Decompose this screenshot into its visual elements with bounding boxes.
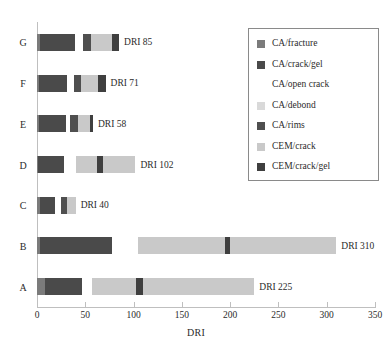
y-axis-label-g: G (14, 37, 32, 48)
x-tick-label: 350 (368, 310, 382, 320)
legend-item: CA/open crack (257, 78, 329, 92)
legend-label: CA/fracture (272, 39, 317, 49)
bar-segment (74, 75, 82, 92)
bar-segment (82, 278, 92, 295)
legend-swatch-icon (257, 102, 265, 110)
bar-total-label: DRI 58 (93, 119, 126, 129)
bar-segment (39, 75, 67, 92)
bar-row-c: DRI 40 (0, 197, 392, 214)
legend-item: CA/debond (257, 99, 316, 113)
dri-stacked-bar-chart: DRI 85DRI 71DRI 58DRI 102DRI 40DRI 310DR… (0, 0, 392, 350)
bar-segment (38, 156, 64, 173)
bar-segment (92, 278, 136, 295)
bar-total-label: DRI 40 (76, 200, 109, 210)
bar-segment (40, 34, 75, 51)
bar-total-label: DRI 71 (106, 78, 139, 88)
x-axis-title: DRI (0, 327, 392, 338)
legend-item: CA/crack/gel (257, 58, 323, 72)
bar-segment (70, 115, 78, 132)
bar-segment (75, 34, 84, 51)
legend-swatch-icon (257, 40, 265, 48)
y-axis-label-e: E (14, 118, 32, 129)
bar-total-label: DRI 102 (136, 160, 174, 170)
bar-segment (143, 278, 254, 295)
x-tick-label: 250 (271, 310, 285, 320)
bar-segment (83, 34, 91, 51)
legend-swatch-icon (257, 143, 265, 151)
bar-segment (64, 156, 76, 173)
x-tick-label: 300 (320, 310, 334, 320)
bar-total-label: DRI 310 (336, 241, 374, 251)
x-tick-mark (375, 302, 376, 308)
legend-label: CEM/crack (272, 142, 316, 152)
x-tick-label: 150 (175, 310, 189, 320)
bar-segment (37, 278, 45, 295)
legend-item: CEM/crack/gel (257, 160, 330, 174)
x-tick-mark (278, 302, 279, 308)
legend-label: CA/open crack (272, 80, 329, 90)
bar-segment (40, 237, 112, 254)
y-axis-label-a: A (14, 281, 32, 292)
bar-segment (40, 197, 55, 214)
x-tick-mark (85, 302, 86, 308)
bar-segment (39, 115, 66, 132)
x-tick-label: 0 (35, 310, 40, 320)
x-tick-label: 50 (81, 310, 91, 320)
y-axis-label-b: B (14, 240, 32, 251)
legend-swatch-icon (257, 61, 265, 69)
x-tick-label: 200 (223, 310, 237, 320)
bar-segment (112, 34, 119, 51)
y-axis-label-f: F (14, 78, 32, 89)
bar-segment (91, 34, 112, 51)
legend-label: CA/debond (272, 101, 316, 111)
x-tick-label: 100 (126, 310, 140, 320)
legend-item: CEM/crack (257, 140, 316, 154)
bar-segment (103, 156, 136, 173)
legend-label: CA/crack/gel (272, 60, 323, 70)
bar-segment (138, 237, 225, 254)
bar-segment (67, 197, 76, 214)
bar-total-label: DRI 225 (254, 282, 292, 292)
bar-row-a: DRI 225 (0, 278, 392, 295)
x-tick-mark (37, 302, 38, 308)
bar-segment (76, 156, 97, 173)
y-axis-label-d: D (14, 159, 32, 170)
bar-segment (78, 115, 91, 132)
legend-item: CA/rims (257, 119, 305, 133)
legend-label: CA/rims (272, 121, 305, 131)
bar-segment (98, 75, 106, 92)
legend-item: CA/fracture (257, 37, 317, 51)
legend-swatch-icon (257, 122, 265, 130)
bar-segment (136, 278, 143, 295)
x-tick-mark (230, 302, 231, 308)
bar-row-b: DRI 310 (0, 237, 392, 254)
bar-total-label: DRI 85 (119, 37, 152, 47)
bar-segment (45, 278, 83, 295)
legend-label: CEM/crack/gel (272, 162, 330, 172)
x-tick-mark (134, 302, 135, 308)
bar-segment (67, 75, 74, 92)
bar-segment (112, 237, 138, 254)
legend-swatch-icon (257, 163, 265, 171)
legend: CA/fractureCA/crack/gelCA/open crackCA/d… (248, 28, 379, 181)
y-axis-label-c: C (14, 200, 32, 211)
x-tick-mark (182, 302, 183, 308)
bar-segment (230, 237, 336, 254)
legend-swatch-icon (257, 81, 265, 89)
bar-segment (81, 75, 97, 92)
x-tick-mark (327, 302, 328, 308)
